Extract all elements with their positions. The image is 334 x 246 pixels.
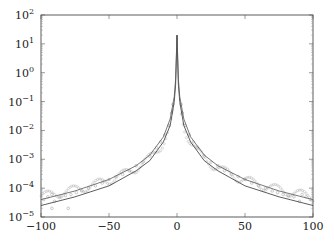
sample-marker: [279, 187, 281, 189]
sample-marker: [276, 191, 279, 194]
sample-marker: [113, 179, 115, 181]
model-curve: [41, 35, 313, 199]
y-tick-label: 100: [15, 65, 34, 80]
outlier-marker: [67, 207, 70, 210]
x-tick-label: 100: [303, 220, 324, 233]
y-tick-label: 102: [15, 7, 34, 22]
y-axis-tick-labels: 10210110010−110−210−310−410−5: [8, 7, 34, 224]
y-tick-label: 10−4: [8, 180, 34, 195]
y-tick-label: 10−1: [8, 94, 34, 109]
sample-marker: [160, 150, 162, 152]
x-axis-tick-labels: −100−50050100: [26, 220, 324, 233]
sample-marker: [70, 193, 73, 196]
x-tick-label: −100: [26, 220, 56, 233]
sample-marker: [305, 192, 307, 194]
plot-area: [40, 35, 314, 209]
sample-marker: [184, 131, 186, 133]
x-tick-label: −50: [97, 220, 120, 233]
log-scale-line-chart: 10210110010−110−210−310−410−5 −100−50050…: [0, 0, 334, 246]
sample-marker: [271, 190, 274, 193]
sample-marker: [163, 143, 165, 145]
sample-marker: [282, 193, 285, 196]
sample-marker: [254, 180, 256, 182]
clipped-caption: [0, 238, 334, 246]
sample-marker: [66, 190, 68, 192]
sample-marker: [185, 137, 187, 139]
sample-marker: [86, 190, 88, 192]
y-tick-label: 101: [15, 36, 34, 51]
sample-marker: [75, 191, 78, 194]
sample-marker: [259, 187, 261, 189]
sample-marker: [161, 147, 163, 149]
sample-marker: [252, 178, 254, 180]
sample-marker: [301, 193, 304, 196]
model-curve: [41, 35, 313, 205]
sample-marker: [307, 194, 309, 196]
sample-marker: [187, 140, 189, 142]
y-tick-label: 10−3: [8, 151, 34, 166]
sample-marker: [64, 194, 67, 197]
sample-marker: [209, 166, 211, 168]
sample-marker: [141, 163, 143, 165]
sample-marker: [281, 189, 283, 191]
sample-marker: [94, 185, 97, 188]
x-tick-label: 50: [238, 220, 252, 233]
outlier-marker: [51, 207, 54, 210]
x-tick-label: 0: [174, 220, 181, 233]
y-tick-label: 10−2: [8, 122, 34, 137]
